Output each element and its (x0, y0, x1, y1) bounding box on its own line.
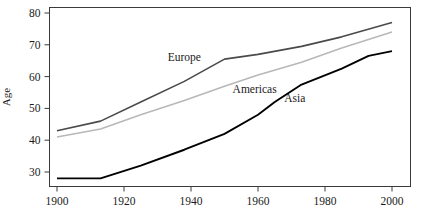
y-axis-tick-label: 40 (29, 134, 41, 146)
y-axis: 304050607080 (29, 7, 50, 178)
x-axis-tick-label: 1980 (314, 195, 337, 207)
x-axis-tick-label: 1940 (180, 195, 203, 207)
series-label-europe: Europe (168, 51, 201, 64)
y-axis-tick-label: 70 (29, 39, 41, 51)
series-label-asia: Asia (284, 92, 305, 104)
plot-frame (50, 8, 411, 187)
series-label-americas: Americas (233, 83, 278, 95)
x-axis-tick-label: 2000 (381, 195, 404, 207)
x-axis: 190019201940196019802000 (46, 187, 404, 207)
y-axis-tick-label: 50 (29, 102, 41, 114)
series-line-americas (57, 32, 392, 137)
series-line-europe (57, 23, 392, 131)
x-axis-tick-label: 1920 (113, 195, 136, 207)
series-line-asia (57, 51, 392, 178)
y-axis-tick-label: 60 (29, 71, 41, 83)
series-group (57, 23, 392, 179)
y-axis-tick-label: 30 (29, 166, 41, 178)
x-axis-tick-label: 1960 (247, 195, 270, 207)
y-axis-tick-label: 80 (29, 7, 41, 19)
life-expectancy-chart: 304050607080Age190019201940196019802000E… (0, 0, 422, 214)
series-labels: EuropeAmericasAsia (168, 51, 306, 104)
y-axis-title: Age (0, 88, 12, 106)
chart-canvas: 304050607080Age190019201940196019802000E… (0, 0, 422, 214)
x-axis-tick-label: 1900 (46, 195, 69, 207)
